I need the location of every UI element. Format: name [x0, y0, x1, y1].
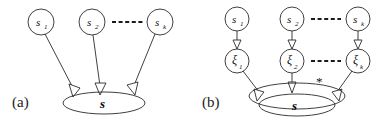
node-b-s2-subscript: 2: [295, 20, 299, 28]
arrowhead-bs1: [233, 40, 241, 49]
panel-b-label: (b): [202, 94, 220, 111]
edge-s1-to-aggregate: [45, 34, 73, 88]
node-s1-base: s: [36, 16, 40, 28]
node-xi1: ξ 1: [225, 49, 249, 73]
arrowhead-bsk: [354, 40, 362, 49]
node-b-s2-circle: [280, 7, 304, 31]
node-sk: s k: [147, 9, 173, 35]
node-b-s1-base: s: [232, 13, 236, 25]
edge-s2-to-aggregate: [93, 35, 100, 86]
panel-a-edges: [45, 34, 155, 88]
node-b-sk: s k: [346, 7, 370, 31]
arrowhead-xi1: [254, 89, 264, 101]
node-xik-subscript: k: [360, 63, 364, 71]
node-sk-subscript: k: [163, 23, 167, 31]
asterisk-annotation: *: [316, 74, 323, 89]
node-xi2-base: ξ: [287, 53, 293, 67]
node-s1-subscript: 1: [44, 23, 48, 31]
panel-b: (b): [202, 7, 370, 116]
node-b-sk-circle: [346, 7, 370, 31]
aggregate-ellipse-a-label: s: [99, 96, 105, 111]
node-b-s2-base: s: [287, 13, 291, 25]
node-xik: ξ k: [346, 49, 370, 73]
node-b-s1-subscript: 1: [240, 20, 244, 28]
arrowhead-s2: [95, 83, 106, 95]
arrowhead-bs2: [288, 40, 296, 49]
node-s2: s 2: [79, 9, 105, 35]
node-s2-subscript: 2: [95, 23, 99, 31]
panel-b-source-arrowheads: [233, 40, 362, 49]
aggregate-ellipse-a: s: [63, 92, 145, 114]
node-s1-circle: [28, 9, 54, 35]
node-s2-circle: [79, 9, 105, 35]
panel-b-latent-edges: [243, 71, 352, 92]
node-b-s1-circle: [225, 7, 249, 31]
node-xi1-base: ξ: [232, 53, 238, 67]
panel-b-source-edges: [237, 31, 358, 42]
panel-a-arrowheads: [69, 82, 138, 97]
edge-xik-to-aggregate: [337, 71, 352, 92]
node-b-s2: s 2: [280, 7, 304, 31]
node-xik-base: ξ: [353, 53, 359, 67]
node-sk-base: s: [155, 16, 159, 28]
node-b-sk-base: s: [353, 13, 357, 25]
arrowhead-sk: [127, 82, 138, 95]
node-xi1-subscript: 1: [239, 63, 243, 71]
figure-canvas: (a) s 1 s 2: [0, 0, 387, 124]
aggregate-inner-ellipse-b: s: [259, 94, 335, 116]
node-b-s1: s 1: [225, 7, 249, 31]
arrowhead-xi2: [288, 82, 296, 93]
node-s1: s 1: [28, 9, 54, 35]
panel-a: (a) s 1 s 2: [12, 9, 173, 114]
node-xi2-subscript: 2: [294, 63, 298, 71]
node-sk-circle: [147, 9, 173, 35]
node-xi2: ξ 2: [280, 49, 304, 73]
aggregate-inner-ellipse-b-label: s: [291, 98, 297, 113]
panel-a-label: (a): [12, 94, 29, 111]
node-b-sk-subscript: k: [361, 20, 365, 28]
node-s2-base: s: [87, 16, 91, 28]
edge-sk-to-aggregate: [133, 34, 155, 88]
